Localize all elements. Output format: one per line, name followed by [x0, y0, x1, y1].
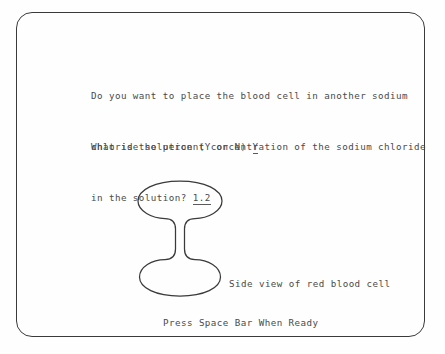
red-blood-cell-diagram — [125, 171, 235, 307]
question-two-line-1: What is the percent concentration of the… — [91, 138, 426, 155]
program-screen-frame: Do you want to place the blood cell in a… — [16, 12, 425, 337]
red-blood-cell-outline — [138, 181, 222, 296]
cell-diagram-caption: Side view of red blood cell — [229, 278, 391, 289]
question-one-line-1: Do you want to place the blood cell in a… — [91, 87, 408, 104]
press-space-bar-prompt: Press Space Bar When Ready — [163, 317, 319, 328]
